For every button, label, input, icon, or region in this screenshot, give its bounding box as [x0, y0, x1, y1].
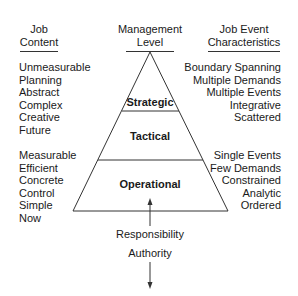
job-event-lower-list: Single Events Few Demands Constrained An…	[210, 149, 281, 212]
list-item: Ordered	[210, 199, 281, 212]
list-item: Future	[19, 124, 91, 137]
list-item: Few Demands	[210, 162, 281, 175]
list-item: Single Events	[210, 149, 281, 162]
list-item: Integrative	[184, 99, 281, 112]
list-item: Abstract	[19, 86, 91, 99]
list-item: Concrete	[19, 174, 76, 187]
list-item: Control	[19, 187, 76, 200]
header-management-level-line1: Management	[115, 23, 185, 36]
list-item: Multiple Events	[184, 86, 281, 99]
list-item: Analytic	[210, 187, 281, 200]
header-job-event-line1: Job Event	[200, 23, 288, 36]
header-management-level-line2: Level	[126, 36, 174, 52]
job-event-upper-list: Boundary Spanning Multiple Demands Multi…	[184, 61, 281, 124]
list-item: Scattered	[184, 111, 281, 124]
list-item: Unmeasurable	[19, 61, 91, 74]
header-job-content-line1: Job	[14, 23, 64, 36]
authority-label: Authority	[100, 247, 200, 259]
level-strategic: Strategic	[110, 96, 190, 108]
job-content-lower-list: Measurable Efficient Concrete Control Si…	[19, 149, 76, 224]
header-job-content-line2: Content	[20, 36, 59, 52]
list-item: Boundary Spanning	[184, 61, 281, 74]
up-arrow-head	[148, 198, 153, 205]
job-content-upper-list: Unmeasurable Planning Abstract Complex C…	[19, 61, 91, 136]
list-item: Constrained	[210, 174, 281, 187]
list-item: Creative	[19, 111, 91, 124]
header-job-event-characteristics: Job Event Characteristics	[200, 23, 288, 52]
header-management-level: Management Level	[115, 23, 185, 52]
header-job-event-line2: Characteristics	[208, 36, 281, 52]
list-item: Planning	[19, 74, 91, 87]
list-item: Multiple Demands	[184, 74, 281, 87]
list-item: Measurable	[19, 149, 76, 162]
level-operational: Operational	[100, 178, 200, 190]
down-arrow-head	[148, 282, 153, 289]
header-job-content: Job Content	[14, 23, 64, 52]
list-item: Now	[19, 212, 76, 225]
list-item: Simple	[19, 199, 76, 212]
level-tactical: Tactical	[110, 130, 190, 142]
list-item: Complex	[19, 99, 91, 112]
responsibility-label: Responsibility	[100, 228, 200, 240]
list-item: Efficient	[19, 162, 76, 175]
